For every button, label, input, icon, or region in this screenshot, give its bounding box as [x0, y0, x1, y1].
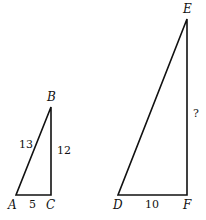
vertex-label-d: D [112, 198, 123, 212]
triangle-abc [16, 107, 51, 195]
similar-triangles-diagram: A B C 13 12 5 D E F 10 ? [0, 0, 206, 220]
vertex-label-c: C [46, 198, 55, 212]
side-label-ab: 13 [19, 138, 33, 151]
vertex-label-b: B [46, 90, 56, 104]
side-label-bc: 12 [57, 144, 71, 157]
triangle-def [118, 19, 187, 195]
side-label-df: 10 [145, 198, 159, 211]
side-label-ac: 5 [29, 198, 36, 211]
vertex-label-e: E [182, 2, 192, 16]
side-label-ef: ? [193, 107, 199, 120]
vertex-label-f: F [182, 198, 192, 212]
vertex-label-a: A [7, 198, 17, 212]
